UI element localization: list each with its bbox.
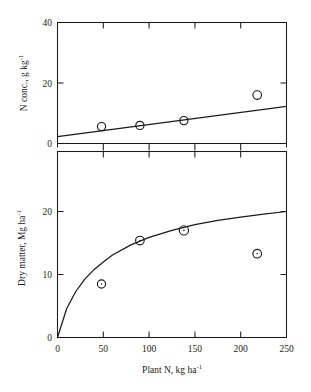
- xtick-label-50: 50: [99, 344, 109, 354]
- bottom-panel-ytick-label-0: 0: [47, 333, 52, 343]
- bottom-panel-frame: [58, 152, 287, 338]
- x-axis-label: Plant N, kg ha-1: [142, 363, 202, 375]
- top-panel-fit-line: [58, 106, 287, 136]
- data-point-center: [139, 240, 141, 242]
- top-panel-ytick-label-40: 40: [43, 18, 53, 28]
- bottom-panel-ytick-label-20: 20: [43, 207, 53, 217]
- data-point: [97, 123, 105, 131]
- top-panel-ytick-label-20: 20: [43, 79, 53, 89]
- xtick-label-200: 200: [234, 344, 249, 354]
- bottom-panel-y-axis-label-exponent: -1: [15, 210, 22, 215]
- bottom-panel-data-points: [97, 226, 261, 288]
- top-panel: 40 20 0 N conc., g kg-1: [17, 18, 287, 151]
- bottom-panel-y-axis-label: Dry matter, Mg ha-1: [15, 210, 27, 286]
- bottom-panel-ytick-label-10: 10: [43, 270, 53, 280]
- top-panel-y-axis-label-exponent: -1: [17, 55, 24, 60]
- xtick-label-0: 0: [55, 344, 60, 354]
- bottom-panel-x-ticks: [103, 152, 240, 338]
- figure-panel-group: 40 20 0 N conc., g kg-1: [0, 0, 311, 392]
- svg-text:Dry matter, Mg ha-1: Dry matter, Mg ha-1: [15, 210, 27, 286]
- bottom-panel: 20 10 0 Dry matter, Mg ha-1 0 50 100 150…: [15, 152, 294, 355]
- data-point-center: [256, 253, 258, 255]
- top-panel-y-axis-label-text: N conc., g kg: [19, 60, 29, 111]
- top-panel-frame: [58, 23, 287, 144]
- top-panel-ytick-label-0: 0: [47, 139, 52, 149]
- data-point: [253, 91, 262, 100]
- x-axis-label-exponent: -1: [196, 363, 201, 370]
- bottom-panel-fit-curve: [58, 212, 287, 338]
- top-panel-data-points: [97, 91, 261, 131]
- x-axis-label-text: Plant N, kg ha: [142, 365, 197, 375]
- top-panel-y-ticks: [58, 23, 287, 144]
- svg-text:N conc., g kg-1: N conc., g kg-1: [17, 55, 29, 111]
- top-panel-y-axis-label: N conc., g kg-1: [17, 55, 29, 111]
- data-point-center: [183, 230, 185, 232]
- xtick-label-100: 100: [142, 344, 157, 354]
- xtick-label-150: 150: [188, 344, 203, 354]
- bottom-panel-y-axis-label-text: Dry matter, Mg ha: [17, 215, 27, 286]
- data-point-center: [101, 283, 103, 285]
- xtick-label-250: 250: [279, 344, 294, 354]
- top-panel-x-ticks-top: [103, 23, 240, 29]
- top-panel-x-ticks: [58, 144, 287, 151]
